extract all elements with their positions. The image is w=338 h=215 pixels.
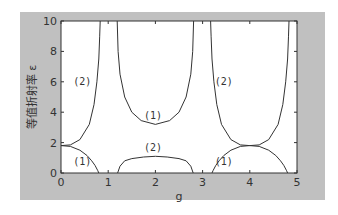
plot-area xyxy=(61,21,297,173)
curve-annotation: (2) xyxy=(73,76,91,87)
curve-annotation: (1) xyxy=(215,156,233,167)
x-tick-label: 3 xyxy=(199,176,206,189)
curve-annotation: (1) xyxy=(144,110,162,121)
x-tick-label: 4 xyxy=(246,176,253,189)
curve-annotation: (2) xyxy=(144,142,162,153)
y-axis-label: 等值折射率 ε xyxy=(25,65,39,129)
y-tick-label: 4 xyxy=(50,106,57,119)
y-tick-label: 2 xyxy=(50,137,57,150)
y-tick-label: 6 xyxy=(50,76,57,89)
y-tick-label: 8 xyxy=(50,45,57,58)
curve-annotation: (2) xyxy=(215,76,233,87)
x-tick-label: 2 xyxy=(152,176,159,189)
x-axis-label: g xyxy=(176,190,183,203)
refractive-index-chart: 012345 0246810 (2)(1)(1)(2)(2)(1) g 等值折射… xyxy=(0,0,338,215)
x-tick-label: 0 xyxy=(58,176,65,189)
curve-annotation: (1) xyxy=(73,156,91,167)
y-tick-label: 0 xyxy=(50,167,57,180)
x-tick-label: 1 xyxy=(105,176,112,189)
x-tick-label: 5 xyxy=(294,176,301,189)
y-tick-label: 10 xyxy=(43,15,57,28)
